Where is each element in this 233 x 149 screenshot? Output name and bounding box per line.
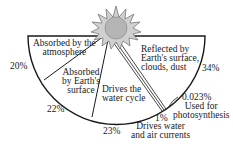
label-reflected: Reflected by Earth's surface, clouds, du… (141, 45, 199, 72)
label-photosynthesis: Used for photosynthesis (173, 102, 229, 120)
percent-water-cycle: 23% (103, 127, 120, 136)
label-absorbed-surface: Absorbed by Earth's surface (62, 68, 100, 95)
percent-reflected: 34% (202, 64, 219, 73)
label-water-cycle: Drives the water cycle (102, 85, 146, 103)
percent-atmosphere: 20% (10, 62, 27, 71)
sun-icon (91, 6, 141, 49)
label-currents: Drives water and air currents (131, 122, 190, 140)
percent-surface: 22% (47, 105, 64, 114)
label-absorbed-atmosphere: Absorbed by the atmosphere (33, 39, 96, 57)
